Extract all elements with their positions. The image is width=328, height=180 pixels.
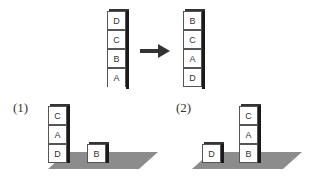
- cube: D: [183, 68, 202, 87]
- cube-side: [221, 144, 224, 163]
- cube: C: [107, 30, 126, 49]
- cube: A: [183, 49, 202, 68]
- right-arrow-icon: [140, 44, 170, 58]
- cube-side: [126, 11, 129, 89]
- cube-side: [258, 106, 261, 163]
- cube: A: [48, 125, 67, 144]
- state-label-2: (2): [176, 100, 191, 116]
- cube: B: [87, 144, 106, 163]
- cube-side: [202, 11, 205, 89]
- cube-side: [106, 144, 109, 163]
- cube: C: [239, 106, 258, 125]
- cube: B: [183, 11, 202, 30]
- cube: A: [239, 125, 258, 144]
- cube: D: [202, 144, 221, 163]
- cube: C: [183, 30, 202, 49]
- cube: A: [107, 68, 126, 87]
- cube: B: [107, 49, 126, 68]
- cube: D: [48, 144, 67, 163]
- cube: D: [107, 11, 126, 30]
- cube: C: [48, 106, 67, 125]
- cube-side: [67, 106, 70, 163]
- state-label-1: (1): [13, 100, 28, 116]
- cube: B: [239, 144, 258, 163]
